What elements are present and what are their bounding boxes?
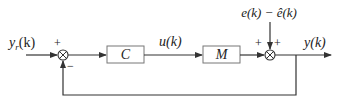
junction2-plus-top: +	[274, 36, 281, 50]
controller-label: C	[121, 47, 131, 62]
feedback-path	[63, 55, 296, 95]
block-diagram: yr(k) + − C u(k) M e(k) − ê(k) + + y(k)	[0, 0, 340, 103]
plant-block: M	[203, 46, 240, 63]
junction2-plus-left: +	[255, 36, 262, 50]
output-label: y(k)	[302, 35, 326, 51]
junction1-plus-sign: +	[54, 36, 61, 50]
summing-junction-2	[265, 50, 275, 60]
input-label: yr(k)	[7, 35, 35, 52]
control-signal-label: u(k)	[159, 34, 182, 50]
plant-label: M	[215, 47, 229, 62]
disturbance-label: e(k) − ê(k)	[241, 5, 297, 20]
controller-block: C	[107, 46, 144, 63]
junction1-minus-sign: −	[67, 59, 74, 73]
